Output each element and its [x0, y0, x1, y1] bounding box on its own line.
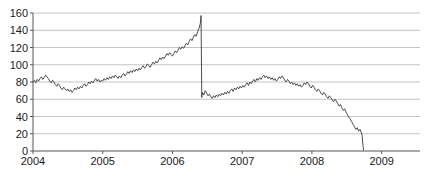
x-tick-label-2004: 2004	[21, 155, 45, 167]
x-tick-label-2005: 2005	[90, 155, 114, 167]
x-tick-label-2009: 2009	[369, 155, 393, 167]
x-tick-label-2007: 2007	[230, 155, 254, 167]
y-tick-label-80: 80	[16, 76, 28, 88]
y-tick-label-100: 100	[10, 59, 28, 71]
x-tick-label-2006: 2006	[160, 155, 184, 167]
x-tick-label-2008: 2008	[300, 155, 324, 167]
y-tick-label-160: 160	[10, 7, 28, 19]
y-tick-label-60: 60	[16, 93, 28, 105]
chart-background	[0, 0, 430, 182]
y-tick-label-140: 140	[10, 24, 28, 36]
line-chart: 020406080100120140160 200420052006200720…	[0, 0, 430, 182]
y-tick-label-20: 20	[16, 128, 28, 140]
y-tick-label-40: 40	[16, 111, 28, 123]
chart-canvas: 020406080100120140160 200420052006200720…	[0, 0, 430, 182]
y-tick-label-120: 120	[10, 42, 28, 54]
